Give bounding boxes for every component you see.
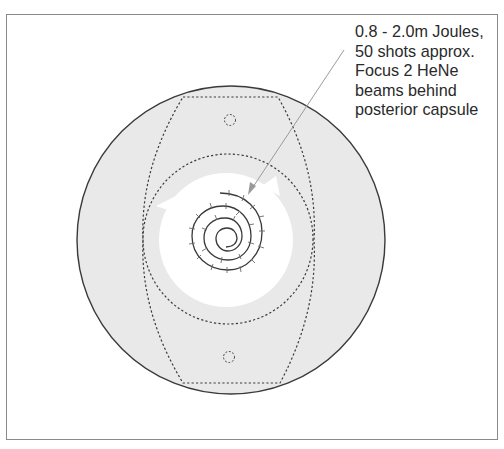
annotation-text: 0.8 - 2.0m Joules, 50 shots approx. Focu…	[355, 22, 484, 120]
annotation-line: Focus 2 HeNe	[355, 61, 484, 81]
annotation-line: 50 shots approx.	[355, 42, 484, 62]
annotation-line: posterior capsule	[355, 100, 484, 120]
annotation-line: beams behind	[355, 81, 484, 101]
annotation-line: 0.8 - 2.0m Joules,	[355, 22, 484, 42]
